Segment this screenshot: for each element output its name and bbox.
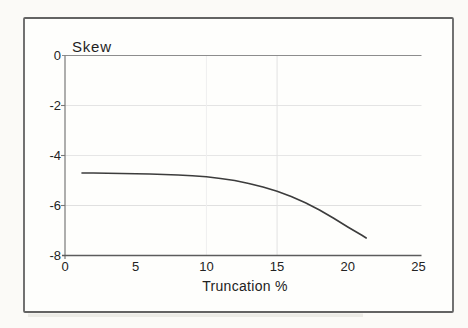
x-tick-label: 25 [411,259,425,274]
x-tick-label: 0 [61,259,68,274]
y-tick-label: 0 [54,48,61,63]
figure-page: 0510152025 0-2-4-6-8 Skew Truncation % [0,0,468,328]
chart-title: Skew [72,38,112,55]
y-tick-label: -2 [49,98,61,113]
x-tick-label: 20 [341,259,355,274]
figure-frame [24,18,453,312]
x-tick-label: 10 [199,259,213,274]
y-tick-label: -8 [49,248,61,263]
x-tick-label: 5 [132,259,139,274]
x-tick-label: 15 [270,259,284,274]
y-tick-label: -6 [49,198,61,213]
x-axis-label: Truncation % [202,278,288,294]
y-tick-label: -4 [49,148,61,163]
skew-line-chart: 0510152025 0-2-4-6-8 Skew Truncation % [0,0,468,328]
frame-shadow [28,314,363,318]
